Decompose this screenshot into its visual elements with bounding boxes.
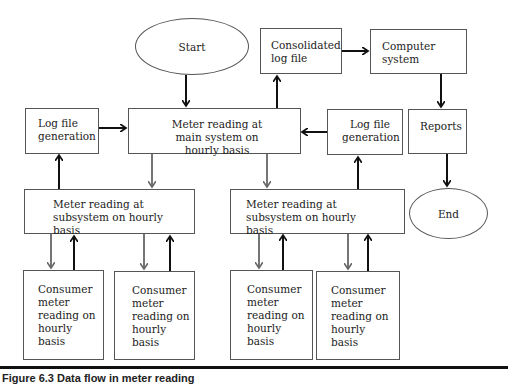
figure-caption: Figure 6.3 Data flow in meter reading (2, 372, 195, 384)
subsystem-left-label: Meter reading at subsystem on hourly bas… (53, 198, 178, 237)
reports-box: Reports (408, 109, 467, 154)
consumer-box: Consumer meter reading on hourly basis (23, 270, 104, 360)
log-file-right-label: Log file generation (342, 118, 398, 144)
main-system-box: Meter reading at main system on hourly b… (128, 108, 301, 154)
subsystem-right-box: Meter reading at subsystem on hourly bas… (230, 189, 405, 234)
log-file-left-label: Log file generation (38, 117, 94, 143)
start-label: Start (179, 41, 206, 53)
consumer-label: Consumer meter reading on hourly basis (132, 284, 192, 349)
end-label: End (438, 208, 459, 220)
consumer-box: Consumer meter reading on hourly basis (114, 271, 195, 360)
consolidated-log-box: Consolidated log file (260, 28, 342, 74)
reports-label: Reports (420, 120, 462, 133)
log-file-right-box: Log file generation (327, 109, 403, 155)
consumer-box: Consumer meter reading on hourly basis (316, 271, 400, 360)
subsystem-left-box: Meter reading at subsystem on hourly bas… (24, 189, 195, 234)
caption-rule (0, 366, 508, 369)
end-node: End (409, 188, 488, 239)
consumer-box: Consumer meter reading on hourly basis (230, 270, 313, 360)
computer-system-label: Computer system (382, 40, 442, 66)
main-system-label: Meter reading at main system on hourly b… (162, 118, 272, 157)
consumer-label: Consumer meter reading on hourly basis (331, 284, 391, 349)
computer-system-box: Computer system (370, 29, 467, 74)
consumer-label: Consumer meter reading on hourly basis (38, 283, 98, 348)
start-node: Start (135, 18, 249, 75)
consolidated-log-label: Consolidated log file (271, 39, 337, 65)
subsystem-right-label: Meter reading at subsystem on hourly bas… (246, 198, 371, 237)
log-file-left-box: Log file generation (25, 108, 99, 154)
consumer-label: Consumer meter reading on hourly basis (247, 283, 307, 348)
